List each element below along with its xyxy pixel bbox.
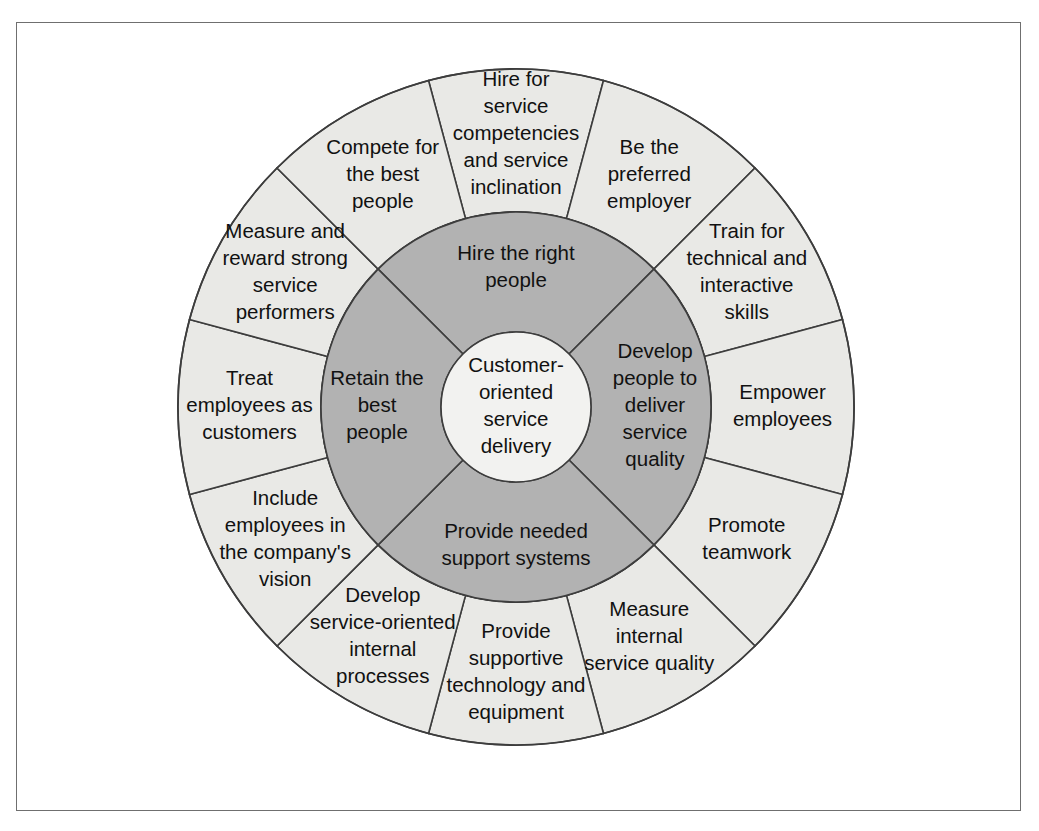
- inner-label-develop-people-to-deliver-service-quality: Developpeople todeliverservicequality: [613, 339, 697, 470]
- wheel-svg: Hire forservicecompetenciesand servicein…: [0, 0, 1039, 831]
- service-delivery-wheel: Hire forservicecompetenciesand servicein…: [0, 0, 1039, 831]
